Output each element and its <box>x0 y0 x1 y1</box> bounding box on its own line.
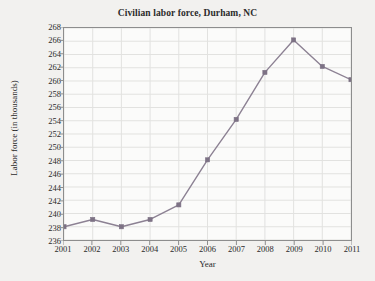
x-tick-label: 2010 <box>315 245 332 254</box>
data-point-marker <box>349 78 351 82</box>
plot-area <box>63 27 352 241</box>
x-tick-label: 2002 <box>83 245 100 254</box>
data-point-marker <box>263 70 267 74</box>
data-point-marker <box>320 64 324 68</box>
x-tick-label: 2001 <box>55 245 72 254</box>
data-point-marker <box>91 217 95 221</box>
x-tick-label: 2008 <box>257 245 274 254</box>
chart-figure: Civilian labor force, Durham, NC Labor f… <box>0 0 375 281</box>
data-point-marker <box>119 225 123 229</box>
x-tick-label: 2005 <box>170 245 187 254</box>
data-point-marker <box>177 203 181 207</box>
series-line <box>64 40 351 227</box>
data-point-marker <box>148 217 152 221</box>
y-axis-title: Labor force (in thousands) <box>9 38 19 218</box>
data-point-marker <box>234 117 238 121</box>
x-tick-label: 2004 <box>141 245 158 254</box>
data-point-marker <box>64 225 66 229</box>
chart-title: Civilian labor force, Durham, NC <box>0 8 375 18</box>
x-tick-label: 2009 <box>286 245 303 254</box>
x-axis-tick-labels: 2001200220032004200520062007200820092010… <box>63 245 352 259</box>
data-series-line <box>64 28 351 240</box>
x-axis-title: Year <box>63 259 352 269</box>
x-tick-label: 2003 <box>112 245 129 254</box>
x-tick-label: 2011 <box>344 245 361 254</box>
x-tick-label: 2007 <box>228 245 245 254</box>
data-point-marker <box>205 158 209 162</box>
x-tick-label: 2006 <box>199 245 216 254</box>
data-point-marker <box>292 38 296 42</box>
